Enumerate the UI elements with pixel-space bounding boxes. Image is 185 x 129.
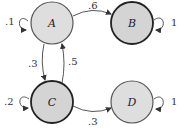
self-loop-d: 1	[154, 96, 177, 109]
node-label-a: A	[47, 17, 56, 30]
self-loop-a: .1	[5, 16, 28, 30]
edge-label-a-b: .6	[88, 0, 98, 11]
node-a: A	[31, 2, 73, 44]
node-d: D	[111, 81, 153, 123]
edge-label-c-c: .2	[4, 96, 14, 107]
node-label-b: B	[127, 17, 136, 30]
edge-label-c-d: .3	[88, 116, 98, 127]
node-c: C	[31, 81, 73, 123]
node-label-c: C	[48, 96, 57, 109]
edge-label-d-d: 1	[171, 96, 177, 107]
edge-a-to-b: .6	[73, 0, 111, 16]
markov-chain-diagram: .6 .3 .5 .3 .1 1 .2 1 A B	[0, 0, 185, 129]
self-loop-c: .2	[4, 96, 29, 108]
edge-c-to-a: .5	[62, 44, 78, 83]
edge-a-to-c: .3	[28, 44, 45, 80]
edge-c-to-d: .3	[73, 106, 111, 127]
node-label-d: D	[127, 96, 137, 109]
self-loop-b: 1	[154, 17, 177, 30]
edge-label-a-c: .3	[28, 58, 38, 69]
edge-label-a-a: .1	[5, 16, 15, 27]
edge-label-b-b: 1	[171, 17, 177, 28]
node-b: B	[111, 2, 153, 44]
edge-label-c-a: .5	[68, 56, 78, 67]
